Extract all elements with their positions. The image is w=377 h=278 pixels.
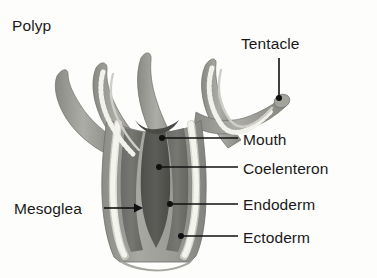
label-mouth: Mouth <box>243 132 287 148</box>
polyp-illustration <box>0 0 377 278</box>
leader-dot-endoderm <box>167 201 173 207</box>
leader-dot-mouth <box>159 135 165 141</box>
label-endoderm: Endoderm <box>243 197 315 213</box>
figure-title: Polyp <box>12 18 51 34</box>
leader-dot-tentacle <box>276 95 282 101</box>
label-tentacle: Tentacle <box>241 36 300 52</box>
label-coelenteron: Coelenteron <box>243 161 329 177</box>
label-mesoglea: Mesoglea <box>14 201 82 217</box>
label-ectoderm: Ectoderm <box>243 230 310 246</box>
polyp-diagram: Polyp Tentacle Mouth Coelenteron Endoder… <box>0 0 377 278</box>
leader-dot-coelenteron <box>156 164 162 170</box>
leader-dot-ectoderm <box>178 233 184 239</box>
